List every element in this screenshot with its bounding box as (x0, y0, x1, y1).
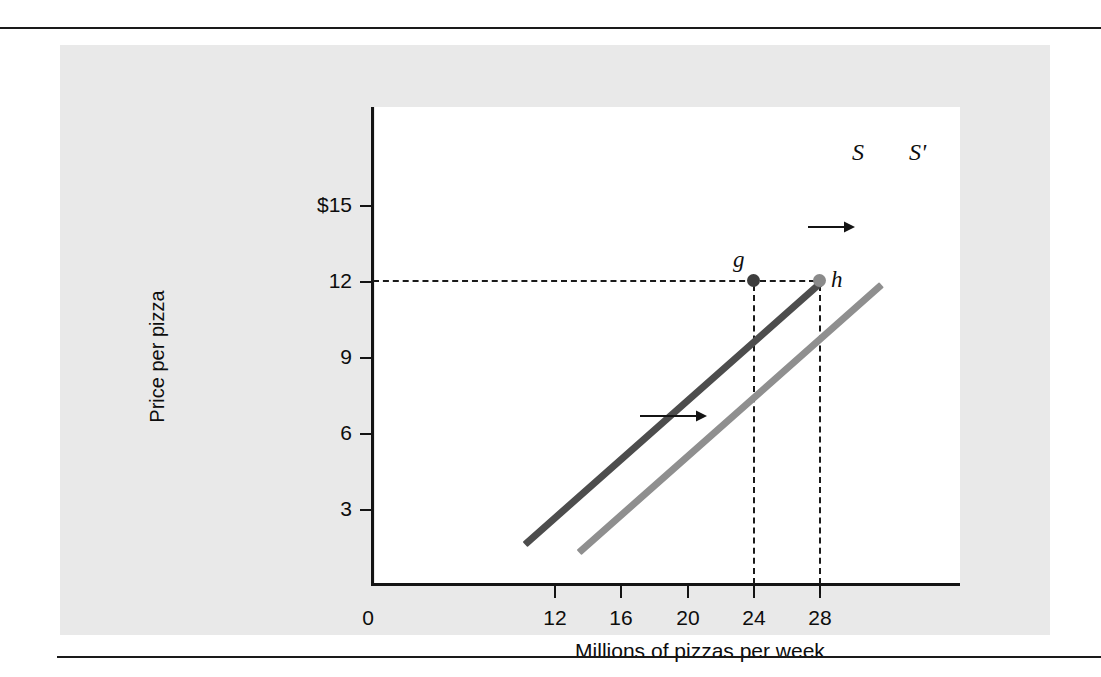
upper-shift-arrow (808, 220, 856, 234)
data-point-label-g: g (733, 247, 745, 273)
x-axis-tick-label: 16 (596, 606, 646, 630)
x-axis-tick (753, 586, 755, 598)
y-axis-tick (360, 433, 371, 435)
price-guide-line-segment (760, 280, 815, 282)
x-axis-tick (687, 586, 689, 598)
x-axis-tick-label: 20 (663, 606, 713, 630)
bottom-divider-rule (57, 656, 1101, 658)
y-axis-tick (360, 509, 371, 511)
figure-panel: $15 12 9 6 3 12 16 20 24 28 0 Price per … (60, 45, 1050, 635)
y-axis-tick (360, 357, 371, 359)
y-axis-tick-label: 9 (282, 345, 352, 369)
x-axis-line (371, 583, 960, 586)
quantity-guide-line-g (753, 285, 755, 584)
curve-label-s: S (852, 139, 864, 166)
x-axis-tick (819, 586, 821, 598)
lower-shift-arrow (640, 409, 708, 423)
x-axis-tick (554, 586, 556, 598)
y-axis-tick-label: 3 (282, 497, 352, 521)
x-axis-tick-label: 12 (530, 606, 580, 630)
price-guide-line (373, 280, 755, 282)
y-axis-tick-label: 12 (282, 269, 352, 293)
y-axis-tick-label: 6 (282, 421, 352, 445)
x-axis-tick-label: 24 (729, 606, 779, 630)
plot-area (375, 107, 960, 584)
x-axis-tick (620, 586, 622, 598)
top-divider-rule (0, 27, 1101, 29)
y-axis-tick (360, 205, 371, 207)
curve-label-s-prime: S' (909, 139, 926, 166)
y-axis-title: Price per pizza (146, 247, 169, 467)
data-point-label-h: h (831, 267, 843, 293)
x-axis-origin-label: 0 (348, 606, 388, 630)
quantity-guide-line-h (819, 285, 821, 584)
data-point-h (813, 274, 826, 287)
y-axis-tick (360, 281, 371, 283)
y-axis-tick-label: $15 (282, 193, 352, 217)
data-point-g (747, 274, 760, 287)
y-axis-line (371, 107, 374, 586)
x-axis-tick-label: 28 (795, 606, 845, 630)
x-axis-title: Millions of pizzas per week (490, 639, 910, 663)
